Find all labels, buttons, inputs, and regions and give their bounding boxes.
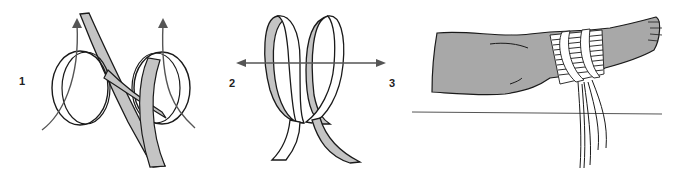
step-label-3: 3 xyxy=(389,77,395,89)
panel-step-2-3: 2 3 xyxy=(200,0,410,177)
panel-applied-leg xyxy=(410,0,676,177)
table-edge-line xyxy=(412,112,662,114)
loops-diagram xyxy=(0,0,200,177)
step-label-1: 1 xyxy=(19,75,25,87)
hanging-ends xyxy=(578,80,606,168)
panel-step-1: 1 xyxy=(0,0,200,177)
leg-illustration xyxy=(410,0,676,177)
bandage-wrap xyxy=(550,29,604,84)
step-label-2: 2 xyxy=(229,77,235,89)
